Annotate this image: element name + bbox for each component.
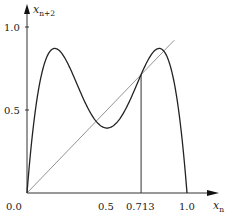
x-axis-label: xn — [213, 199, 224, 214]
x-axis-arrow-icon — [207, 190, 219, 196]
x-tick-label-05: 0.5 — [98, 201, 114, 212]
x-tick-label-0713: 0.713 — [126, 201, 155, 212]
y-tick-label-05: 0.5 — [4, 105, 20, 116]
y-axis-label: xn+2 — [33, 3, 55, 18]
chart-canvas: 1.0 0.5 0.0 0.5 0.713 1.0 xn+2 xn — [0, 0, 232, 219]
second-iterate-curve — [27, 48, 187, 193]
origin-label: 0.0 — [6, 201, 22, 212]
x-tick-label-1: 1.0 — [179, 201, 195, 212]
y-axis-arrow-icon — [24, 4, 30, 14]
y-tick-label-1: 1.0 — [4, 22, 20, 33]
diagonal-line — [27, 40, 174, 193]
